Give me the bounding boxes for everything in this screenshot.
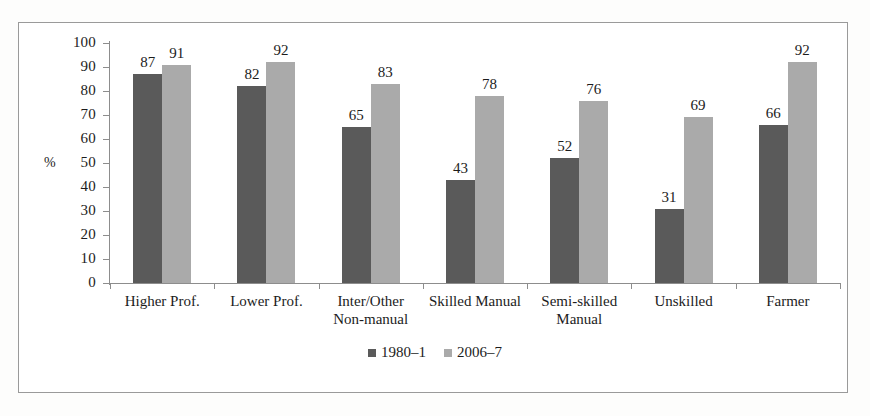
bar-value-label: 83 <box>362 65 409 80</box>
plot-area: 8791829265834378527631696692 <box>110 43 840 283</box>
bar-0-6 <box>759 125 788 283</box>
bar-value-label: 92 <box>257 43 304 58</box>
category-label-line1: Unskilled <box>654 293 712 309</box>
category-label-line2: Non-manual <box>311 310 431 328</box>
category-label-line2: Manual <box>519 310 639 328</box>
x-axis-category-label: Unskilled <box>623 292 743 310</box>
y-axis-tick-mark <box>103 259 109 260</box>
chart-legend: 1980–12006–7 <box>0 345 870 360</box>
x-axis-line <box>109 283 840 284</box>
legend-item-0: 1980–1 <box>368 345 426 360</box>
legend-label: 2006–7 <box>457 345 502 360</box>
bar-1-4 <box>579 101 608 283</box>
y-axis-tick-label: 90 <box>30 59 96 74</box>
legend-label: 1980–1 <box>381 345 426 360</box>
x-axis-tick-mark <box>736 283 737 289</box>
bar-value-label: 78 <box>466 77 513 92</box>
bar-value-label: 91 <box>153 46 200 61</box>
legend-item-1: 2006–7 <box>444 345 502 360</box>
y-axis-tick-label: 50 <box>30 155 96 170</box>
y-axis-tick-mark <box>103 115 109 116</box>
bar-0-2 <box>342 127 371 283</box>
category-label-line1: Lower Prof. <box>230 293 302 309</box>
bar-1-3 <box>475 96 504 283</box>
bar-0-0 <box>133 74 162 283</box>
bar-1-5 <box>684 117 713 283</box>
y-axis-tick-label: 100 <box>30 35 96 50</box>
x-axis-category-label: Higher Prof. <box>102 292 222 310</box>
x-axis-tick-mark <box>319 283 320 289</box>
category-label-line1: Semi-skilled <box>541 293 617 309</box>
x-axis-tick-mark <box>527 283 528 289</box>
y-axis-tick-label: 0 <box>30 275 96 290</box>
bar-0-3 <box>446 180 475 283</box>
category-label-line1: Farmer <box>766 293 809 309</box>
y-axis-tick-label: 30 <box>30 203 96 218</box>
y-axis-tick-mark <box>103 67 109 68</box>
y-axis-tick-mark <box>103 235 109 236</box>
legend-swatch-icon <box>368 349 376 357</box>
category-label-line1: Higher Prof. <box>125 293 200 309</box>
y-axis-tick-mark <box>103 211 109 212</box>
x-axis-category-label: Lower Prof. <box>206 292 326 310</box>
x-axis-tick-mark <box>840 283 841 289</box>
bar-value-label: 76 <box>570 82 617 97</box>
x-axis-tick-mark <box>631 283 632 289</box>
x-axis-tick-mark <box>423 283 424 289</box>
y-axis-tick-label: 10 <box>30 251 96 266</box>
category-label-line1: Inter/Other <box>337 293 404 309</box>
x-axis-tick-mark <box>214 283 215 289</box>
x-axis-category-label: Skilled Manual <box>415 292 535 310</box>
legend-swatch-icon <box>444 349 452 357</box>
bar-1-1 <box>266 62 295 283</box>
bar-0-4 <box>550 158 579 283</box>
bar-1-2 <box>371 84 400 283</box>
figure-page: % 1009080706050403020100 879182926583437… <box>0 0 870 416</box>
y-axis-tick-mark <box>103 283 109 284</box>
y-axis-tick-mark <box>103 163 109 164</box>
bar-1-6 <box>788 62 817 283</box>
y-axis-tick-label: 60 <box>30 131 96 146</box>
bar-0-5 <box>655 209 684 283</box>
x-axis-tick-mark <box>110 283 111 289</box>
y-axis-tick-label: 70 <box>30 107 96 122</box>
category-label-line1: Skilled Manual <box>429 293 521 309</box>
bar-1-0 <box>162 65 191 283</box>
y-axis-tick-mark <box>103 91 109 92</box>
x-axis-category-label: Inter/OtherNon-manual <box>311 292 431 328</box>
y-axis-tick-label: 80 <box>30 83 96 98</box>
bar-value-label: 92 <box>779 43 826 58</box>
x-axis-category-label: Farmer <box>728 292 848 310</box>
y-axis-tick-mark <box>103 187 109 188</box>
y-axis-tick-label: 20 <box>30 227 96 242</box>
y-axis-tick-mark <box>103 43 109 44</box>
y-axis-tick-label: 40 <box>30 179 96 194</box>
x-axis-category-label: Semi-skilledManual <box>519 292 639 328</box>
bar-0-1 <box>237 86 266 283</box>
bar-value-label: 69 <box>675 98 722 113</box>
y-axis-tick-mark <box>103 139 109 140</box>
